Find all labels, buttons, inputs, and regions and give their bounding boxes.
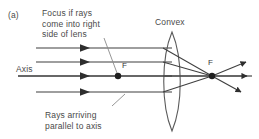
ray-diagram-canvas — [0, 0, 259, 139]
ray-direction-arrow-4 — [80, 88, 90, 96]
caption-bottom-parallel-rays-note: Rays arriving parallel to axis — [45, 110, 102, 131]
caption-top-focus-note: Focus if rays come into right side of le… — [42, 8, 100, 40]
label-convex-lens: Convex — [155, 17, 185, 28]
optics-figure: (a) Focus if rays come into right side o… — [0, 0, 259, 139]
diverging-ray-upper — [212, 62, 246, 76]
refracted-ray-2 — [163, 62, 212, 76]
label-axis: Axis — [16, 64, 33, 75]
convex-lens-shape — [164, 32, 181, 131]
leader-line-top-caption — [104, 38, 117, 73]
label-focal-point-left: F — [122, 61, 127, 72]
focal-point-left-marker — [115, 73, 121, 79]
refracted-ray-4 — [163, 76, 212, 92]
label-focal-point-right: F — [208, 58, 213, 69]
diverging-ray-group — [212, 62, 247, 92]
leader-line-bottom-caption — [112, 94, 125, 106]
ray-direction-arrow-3 — [80, 72, 90, 80]
incoming-ray-group — [18, 48, 172, 92]
ray-direction-arrow-1 — [80, 44, 90, 52]
ray-direction-arrow-group — [80, 44, 90, 96]
ray-direction-arrow-2 — [80, 58, 90, 66]
diverging-ray-lower — [212, 76, 241, 92]
refracted-ray-group — [163, 48, 212, 92]
panel-letter: (a) — [8, 10, 19, 21]
focal-point-right-marker — [209, 73, 215, 79]
